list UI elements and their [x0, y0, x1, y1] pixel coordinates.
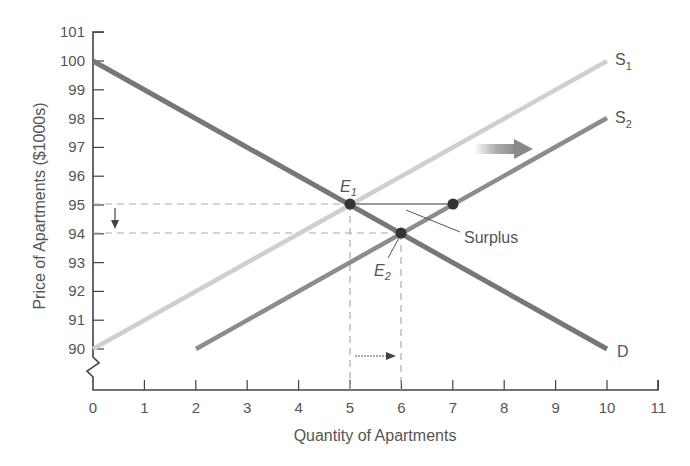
x-axis-title: Quantity of Apartments	[294, 427, 457, 444]
x-tick-label: 1	[140, 399, 148, 416]
y-tick-label: 101	[60, 23, 85, 40]
surplus-label: Surplus	[464, 229, 518, 246]
x-ticks: 01234567891011	[89, 380, 666, 416]
x-tick-label: 11	[651, 399, 667, 416]
y-ticks: 90919293949596979899100101	[60, 23, 104, 357]
e1-label: E1	[340, 178, 357, 198]
x-tick-label: 7	[449, 399, 457, 416]
x-tick-label: 0	[89, 399, 97, 416]
x-tick-label: 4	[294, 399, 302, 416]
y-tick-label: 91	[68, 311, 85, 328]
y-tick-label: 93	[68, 254, 85, 271]
supply-shift-arrow-icon	[474, 139, 533, 159]
equilibrium-point-e1	[345, 199, 356, 210]
y-tick-label: 99	[68, 81, 85, 98]
s1-label: S1	[615, 51, 632, 72]
y-tick-label: 97	[68, 138, 85, 155]
y-axis-line	[87, 32, 658, 390]
equilibrium-point-e2	[396, 228, 407, 239]
surplus-end-point	[448, 199, 459, 210]
e2-label: E2	[374, 262, 391, 282]
quantity-right-arrow-icon	[355, 352, 396, 360]
supply-demand-chart: 90919293949596979899100101 0123456789101…	[0, 0, 690, 466]
x-tick-label: 8	[500, 399, 508, 416]
y-tick-label: 96	[68, 167, 85, 184]
x-tick-label: 3	[243, 399, 251, 416]
y-tick-label: 94	[68, 225, 85, 242]
d-label: D	[617, 343, 629, 360]
y-tick-label: 100	[60, 52, 85, 69]
x-tick-label: 9	[551, 399, 559, 416]
x-tick-label: 10	[599, 399, 616, 416]
y-tick-label: 92	[68, 282, 85, 299]
y-tick-label: 98	[68, 110, 85, 127]
y-axis-title: Price of Apartments ($1000s)	[31, 102, 48, 309]
s2-label: S2	[615, 109, 632, 130]
price-down-arrow-icon	[111, 208, 119, 229]
y-tick-label: 90	[68, 340, 85, 357]
reference-lines	[93, 204, 401, 390]
y-tick-label: 95	[68, 196, 85, 213]
x-tick-label: 5	[346, 399, 354, 416]
x-tick-label: 6	[397, 399, 405, 416]
axes: 90919293949596979899100101 0123456789101…	[60, 23, 666, 416]
x-tick-label: 2	[192, 399, 200, 416]
